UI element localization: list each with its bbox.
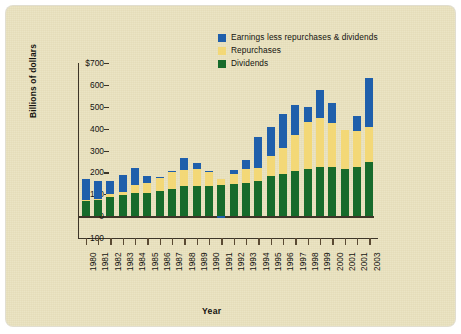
bar-segment-dividends — [291, 171, 299, 216]
bar-column — [156, 63, 164, 238]
x-tick-mark — [271, 238, 272, 245]
bar-segment-earnings-less — [242, 160, 250, 169]
bar-segment-repurchases — [242, 169, 250, 183]
x-axis-title: Year — [202, 306, 221, 316]
bar-segment-repurchases — [230, 174, 238, 184]
bar-column — [94, 63, 102, 238]
x-tick-label: 1981 — [101, 252, 110, 271]
x-tick-mark — [246, 238, 247, 245]
x-tick-label: 2003 — [373, 252, 382, 271]
bar-segment-dividends — [304, 169, 312, 216]
x-tick-mark — [110, 238, 111, 245]
x-tick-label: 1991 — [225, 252, 234, 271]
bar-segment-dividends — [279, 174, 287, 216]
legend-label: Earnings less repurchases & dividends — [231, 33, 378, 42]
bar-segment-repurchases — [304, 122, 312, 169]
bar-column — [279, 63, 287, 238]
bar-segment-earnings-less — [279, 114, 287, 149]
x-tick-mark — [123, 238, 124, 245]
bar-segment-dividends — [156, 191, 164, 217]
bar-segment-dividends — [82, 201, 90, 216]
plot-area: -1000100200300400500600$700 198019811982… — [78, 63, 374, 238]
x-tick-label: 1997 — [299, 252, 308, 271]
bar-column — [217, 63, 225, 238]
x-tick-mark — [234, 238, 235, 245]
bar-segment-repurchases — [180, 170, 188, 186]
bar-column — [119, 63, 127, 238]
bar-segment-dividends — [254, 181, 262, 216]
bar-segment-dividends — [94, 200, 102, 216]
bar-column — [304, 63, 312, 238]
x-tick-label: 1993 — [249, 252, 258, 271]
x-tick-label: 1990 — [212, 252, 221, 271]
bar-segment-repurchases — [353, 131, 361, 167]
x-tick-mark — [172, 238, 173, 245]
bar-column — [328, 63, 336, 238]
bar-segment-dividends — [353, 167, 361, 216]
bar-segment-dividends — [328, 167, 336, 216]
x-tick-mark — [98, 238, 99, 245]
x-tick-label: 1996 — [286, 252, 295, 271]
x-tick-mark — [86, 238, 87, 245]
bar-segment-repurchases — [131, 185, 139, 193]
bar-segment-earnings-less — [94, 181, 102, 199]
bar-segment-dividends — [193, 186, 201, 216]
bar-segment-dividends — [143, 193, 151, 216]
bar-segment-dividends — [168, 189, 176, 216]
bar-segment-earnings-less — [230, 170, 238, 174]
x-tick-mark — [345, 238, 346, 245]
x-tick-label: 1999 — [323, 252, 332, 271]
x-tick-label: 1989 — [200, 252, 209, 271]
bar-column — [365, 63, 373, 238]
chart-card: Earnings less repurchases & dividends Re… — [6, 6, 455, 326]
bar-column — [205, 63, 213, 238]
bar-segment-earnings-less — [304, 107, 312, 122]
x-axis-ticks — [78, 238, 374, 246]
bar-segment-earnings-less — [267, 127, 275, 157]
bar-segment-repurchases — [217, 179, 225, 186]
bar-segment-repurchases — [328, 123, 336, 167]
bar-column — [242, 63, 250, 238]
bar-column — [168, 63, 176, 238]
bar-series-group — [78, 63, 374, 238]
bar-column — [353, 63, 361, 238]
bar-segment-earnings-less — [254, 137, 262, 169]
bar-segment-repurchases — [119, 192, 127, 195]
bar-column — [106, 63, 114, 238]
bar-segment-earnings-less — [353, 116, 361, 131]
y-axis-title: Billions of dollars — [28, 44, 38, 118]
bar-segment-dividends — [230, 184, 238, 216]
bar-segment-repurchases — [365, 127, 373, 162]
x-tick-mark — [209, 238, 210, 245]
x-tick-label: 1987 — [175, 252, 184, 271]
bar-segment-earnings-less — [143, 176, 151, 184]
x-tick-mark — [308, 238, 309, 245]
bar-segment-earnings-less — [168, 171, 176, 173]
bar-segment-dividends — [205, 186, 213, 216]
x-tick-label: 1983 — [126, 252, 135, 271]
bar-column — [82, 63, 90, 238]
bar-segment-earnings-less — [291, 105, 299, 135]
bar-column — [316, 63, 324, 238]
bar-segment-dividends — [267, 176, 275, 216]
x-tick-label: 1984 — [138, 252, 147, 271]
bar-segment-repurchases — [94, 199, 102, 200]
bar-segment-repurchases — [267, 156, 275, 176]
bar-segment-repurchases — [279, 148, 287, 174]
bar-segment-repurchases — [193, 169, 201, 186]
bar-segment-earnings-less — [82, 179, 90, 200]
x-tick-label: 1994 — [262, 252, 271, 271]
bar-column — [341, 63, 349, 238]
x-tick-label: 2000 — [336, 252, 345, 271]
legend-label: Repurchases — [231, 46, 281, 55]
bar-segment-dividends — [119, 195, 127, 216]
bar-segment-earnings-less — [156, 177, 164, 178]
bar-column — [230, 63, 238, 238]
bar-segment-dividends — [316, 167, 324, 216]
legend-item-repurchases: Repurchases — [218, 46, 378, 55]
bar-segment-repurchases — [156, 178, 164, 190]
bar-segment-dividends — [242, 183, 250, 216]
bar-segment-dividends — [106, 197, 114, 216]
bar-segment-repurchases — [143, 183, 151, 192]
x-tick-label: 2001 — [360, 252, 369, 271]
